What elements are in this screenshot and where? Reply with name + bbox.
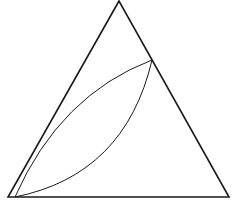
triangle-lens-diagram (0, 0, 236, 206)
lower-arc (15, 60, 152, 197)
equilateral-triangle (8, 1, 229, 197)
diagram-canvas (0, 0, 236, 206)
upper-arc (15, 60, 152, 197)
